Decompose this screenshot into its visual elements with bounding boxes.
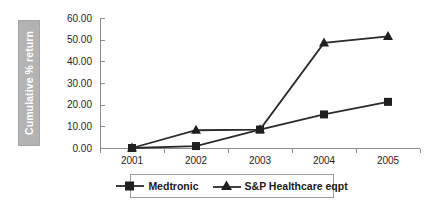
y-tick-label: 40.00 bbox=[67, 56, 92, 67]
y-tick-label: 0.00 bbox=[73, 143, 93, 154]
x-tick-label: 2001 bbox=[121, 155, 144, 166]
legend-label-medtronic: Medtronic bbox=[148, 180, 198, 192]
y-tick-label: 60.00 bbox=[67, 13, 92, 24]
data-point-marker bbox=[384, 98, 392, 106]
x-tick-label: 2002 bbox=[185, 155, 208, 166]
x-axis-tick-labels: 20012002200320042005 bbox=[121, 155, 400, 166]
y-tick-label: 30.00 bbox=[67, 78, 92, 89]
triangle-marker-icon bbox=[213, 180, 241, 192]
legend-entry-medtronic: Medtronic bbox=[116, 180, 198, 192]
data-point-marker bbox=[383, 31, 393, 40]
y-tick-label: 20.00 bbox=[67, 99, 92, 110]
legend-entry-sp-healthcare: S&P Healthcare eqpt bbox=[213, 180, 348, 192]
y-tick-label: 10.00 bbox=[67, 121, 92, 132]
data-point-marker bbox=[192, 142, 200, 150]
x-tick-label: 2004 bbox=[313, 155, 336, 166]
x-tick-label: 2003 bbox=[249, 155, 272, 166]
chart-series bbox=[127, 31, 393, 152]
chart-legend: Medtronic S&P Healthcare eqpt bbox=[130, 174, 334, 198]
y-axis-tick-labels: 0.0010.0020.0030.0040.0050.0060.00 bbox=[67, 13, 92, 154]
x-tick-label: 2005 bbox=[377, 155, 400, 166]
square-marker-icon bbox=[116, 180, 144, 192]
line-chart: Cumulative % return 0.0010.0020.0030.004… bbox=[0, 0, 443, 209]
y-tick-label: 50.00 bbox=[67, 34, 92, 45]
data-point-marker bbox=[320, 110, 328, 118]
legend-label-sp-healthcare: S&P Healthcare eqpt bbox=[245, 180, 348, 192]
